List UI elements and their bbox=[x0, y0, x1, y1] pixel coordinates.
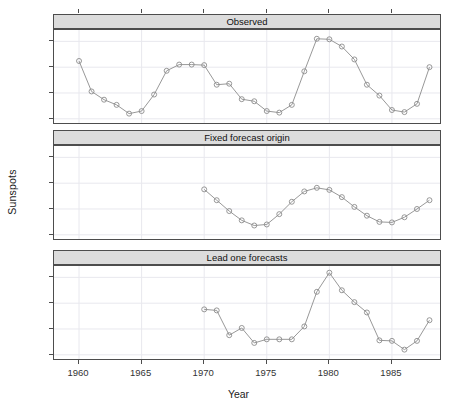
data-points bbox=[77, 36, 432, 116]
x-axis-tick-label: 1960 bbox=[67, 367, 88, 378]
y-axis-tick-mark bbox=[49, 66, 53, 67]
y-axis-tick-mark bbox=[49, 302, 53, 303]
x-axis-tick-mark bbox=[328, 360, 329, 364]
x-axis-tick-mark-top bbox=[391, 9, 392, 13]
x-axis-tick-label: 1970 bbox=[193, 367, 214, 378]
x-axis-tick-mark bbox=[203, 360, 204, 364]
y-axis-tick-mark bbox=[49, 276, 53, 277]
series-canvas bbox=[54, 30, 441, 124]
data-point-marker bbox=[427, 318, 432, 323]
y-axis-tick-mark bbox=[49, 234, 53, 235]
x-axis-tick-mark bbox=[391, 360, 392, 364]
gridlines bbox=[54, 30, 441, 124]
x-axis-tick-label: 1980 bbox=[318, 367, 339, 378]
data-points bbox=[202, 185, 432, 228]
x-axis-tick-mark-top bbox=[266, 9, 267, 13]
data-points bbox=[202, 270, 432, 352]
gridlines bbox=[54, 266, 441, 360]
x-axis-tick-label: 1965 bbox=[130, 367, 151, 378]
x-axis-tick-label: 1985 bbox=[380, 367, 401, 378]
y-axis-tick-mark bbox=[49, 182, 53, 183]
y-axis-tick-mark bbox=[49, 118, 53, 119]
x-axis-tick-mark-top bbox=[141, 9, 142, 13]
y-axis-tick-mark bbox=[49, 208, 53, 209]
panel-strip-title-lead-one-forecasts: Lead one forecasts bbox=[53, 250, 441, 265]
panel-strip-title-fixed-forecast-origin: Fixed forecast origin bbox=[53, 130, 441, 145]
data-line bbox=[79, 39, 429, 114]
series-canvas bbox=[54, 146, 441, 240]
sunspots-trellis-figure: Sunspots Year Observed Fixed forecast or… bbox=[0, 0, 451, 408]
plot-area-fixed-forecast-origin bbox=[53, 145, 441, 240]
data-point-marker bbox=[427, 198, 432, 203]
panel-strip-title-observed: Observed bbox=[53, 14, 441, 29]
x-axis-tick-mark bbox=[141, 360, 142, 364]
plot-area-lead-one-forecasts bbox=[53, 265, 441, 360]
x-axis-tick-mark bbox=[78, 360, 79, 364]
x-axis-tick-mark-top bbox=[328, 9, 329, 13]
data-line bbox=[204, 188, 429, 226]
plot-area-observed bbox=[53, 29, 441, 124]
y-axis-tick-mark bbox=[49, 92, 53, 93]
y-axis-tick-mark bbox=[49, 354, 53, 355]
series-canvas bbox=[54, 266, 441, 360]
data-line bbox=[204, 273, 429, 350]
x-axis-tick-mark-top bbox=[78, 9, 79, 13]
x-axis-tick-label: 1975 bbox=[255, 367, 276, 378]
x-axis-title: Year bbox=[0, 388, 451, 400]
y-axis-title: Sunspots bbox=[6, 152, 18, 232]
x-axis-tick-mark bbox=[266, 360, 267, 364]
x-axis-tick-mark-top bbox=[203, 9, 204, 13]
x-axis-title-text: Year bbox=[202, 388, 249, 400]
gridlines bbox=[54, 146, 441, 240]
y-axis-tick-mark bbox=[49, 156, 53, 157]
y-axis-tick-mark bbox=[49, 40, 53, 41]
y-axis-tick-mark bbox=[49, 328, 53, 329]
